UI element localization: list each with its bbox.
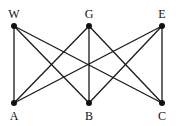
node-W: [11, 23, 17, 29]
node-label-G: G: [85, 8, 94, 20]
node-label-E: E: [158, 8, 165, 20]
node-B: [86, 100, 92, 106]
node-A: [11, 100, 17, 106]
node-label-A: A: [10, 110, 19, 122]
node-C: [159, 100, 165, 106]
node-E: [159, 23, 165, 29]
node-label-B: B: [85, 110, 93, 122]
node-label-W: W: [8, 8, 19, 20]
node-G: [86, 23, 92, 29]
node-label-C: C: [158, 110, 166, 122]
